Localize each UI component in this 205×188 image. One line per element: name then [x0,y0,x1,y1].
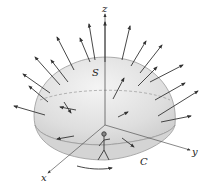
x-axis-label: x [41,172,47,183]
curve-label: C [140,156,148,167]
orientation-arrow [77,166,112,169]
surface-label: S [92,67,99,78]
diagram-canvas [0,0,205,188]
stokes-diagram: z S y x C [0,0,205,188]
y-axis-label: y [192,146,198,157]
z-axis-label: z [102,3,107,14]
